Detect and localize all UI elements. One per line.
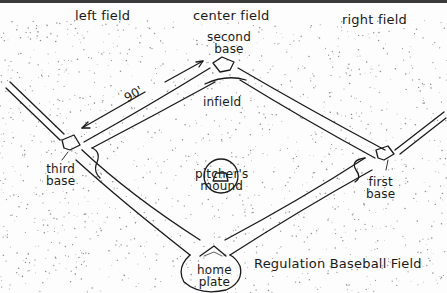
first-base-bag [376, 146, 394, 160]
infield-cutout-second [205, 78, 246, 84]
center-field-label: center field [193, 9, 269, 22]
left-foul-line [6, 88, 60, 140]
infield-label: infield [203, 96, 241, 108]
right-foul-line [395, 112, 444, 150]
diagram-title: Regulation Baseball Field [254, 257, 422, 270]
first-base-label: first base [366, 176, 395, 200]
home-plate-shape [200, 246, 226, 256]
third-to-second-path [84, 68, 210, 142]
second-base-bag [213, 57, 234, 72]
third-to-home-path [76, 160, 190, 255]
grass-stipple [0, 19, 447, 293]
right-field-label: right field [342, 13, 407, 26]
home-plate-label: home plate [197, 264, 232, 288]
pitchers-mound-label: pitcher's mound [195, 168, 249, 192]
baseball-field-diagram: left field center field right field seco… [0, 0, 447, 293]
home-to-first-path [230, 170, 372, 255]
third-base-pointer [62, 152, 68, 160]
second-to-first-path [238, 68, 385, 150]
second-base-label: second base [207, 31, 251, 55]
first-base-pointer [386, 160, 388, 170]
left-field-label: left field [75, 9, 130, 22]
third-base-bag [62, 135, 80, 150]
third-base-label: third base [46, 163, 75, 187]
